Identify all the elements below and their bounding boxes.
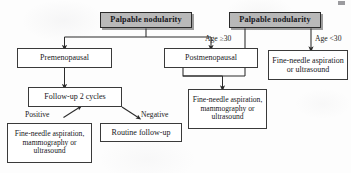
node-fna-left-label: Fine-needle aspiration, mammography or u…: [13, 130, 87, 157]
node-fna-left-line-3: ultrasound: [33, 146, 65, 155]
node-fna-mid[interactable]: Fine-needle aspiration, mammography or u…: [188, 89, 267, 129]
node-left-root[interactable]: Palpable nodularity: [100, 12, 192, 28]
node-postmenopausal-label: Postmenopausal: [183, 53, 239, 62]
edge-label-positive: Positive: [25, 110, 49, 119]
edge-label-age-ge-30: Age ≥30: [205, 34, 231, 43]
node-fna-mid-line-2: mammography or: [200, 104, 254, 113]
edge-label-age-lt-30: Age <30: [315, 34, 341, 43]
node-fna-mid-label: Fine-needle aspiration, mammography or u…: [191, 96, 265, 123]
node-fna-left-line-1: Fine-needle aspiration,: [15, 129, 85, 138]
node-premenopausal-label: Premenopausal: [38, 53, 91, 62]
node-fna-left[interactable]: Fine-needle aspiration, mammography or u…: [7, 123, 92, 163]
node-left-root-label: Palpable nodularity: [108, 15, 183, 25]
node-fna-right-line-2: or ultrasound: [287, 65, 329, 74]
node-fna-right-label: Fine-needle aspiration or ultrasound: [270, 56, 345, 75]
node-followup-cycles-label: Follow-up 2 cycles: [42, 92, 107, 101]
node-fna-mid-line-1: Fine-needle aspiration,: [193, 95, 263, 104]
node-routine-followup[interactable]: Routine follow-up: [100, 123, 182, 142]
node-routine-followup-label: Routine follow-up: [110, 128, 173, 137]
node-fna-mid-line-3: ultrasound: [211, 112, 243, 121]
node-followup-cycles[interactable]: Follow-up 2 cycles: [28, 87, 122, 107]
edge-label-negative: Negative: [141, 110, 168, 119]
node-postmenopausal[interactable]: Postmenopausal: [164, 48, 258, 68]
node-fna-right-line-1: Fine-needle aspiration: [272, 56, 343, 65]
node-right-root[interactable]: Palpable nodularity: [229, 12, 321, 28]
node-right-root-label: Palpable nodularity: [237, 15, 312, 25]
scan-artifact: [338, 1, 345, 5]
node-fna-right[interactable]: Fine-needle aspiration or ultrasound: [268, 50, 348, 80]
flowchart-canvas: Palpable nodularity Palpable nodularity …: [0, 0, 351, 173]
node-fna-left-line-2: mammography or: [22, 138, 76, 147]
node-premenopausal[interactable]: Premenopausal: [17, 48, 112, 68]
